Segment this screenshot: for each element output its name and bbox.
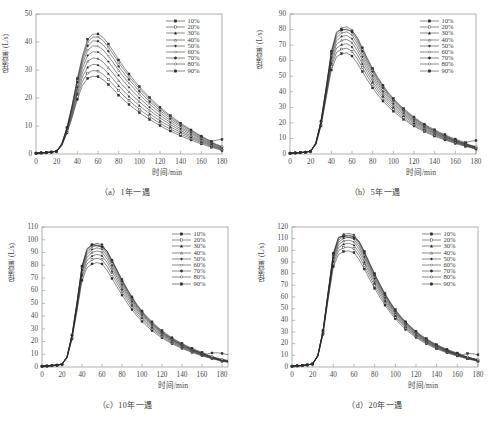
series-marker	[361, 71, 363, 73]
y-tick-label: 110	[16, 223, 38, 231]
y-tick-label: 100	[16, 236, 38, 244]
legend-item[interactable]: 90%	[420, 68, 454, 74]
legend-marker-icon	[420, 37, 439, 43]
series-marker	[159, 125, 161, 127]
series-marker	[341, 44, 343, 46]
legend-marker-icon	[420, 68, 439, 74]
series-marker	[121, 294, 123, 296]
y-tick-label: 90	[266, 258, 288, 266]
series-marker	[97, 33, 99, 35]
y-tick-label: 10	[10, 122, 32, 130]
x-tick-label: 80	[362, 158, 384, 166]
legend-marker-icon	[172, 250, 191, 256]
legend-marker-icon	[422, 256, 441, 262]
series-marker	[341, 48, 343, 50]
series-marker	[312, 363, 314, 365]
series-marker	[161, 330, 163, 332]
series-marker	[111, 274, 113, 276]
series-marker	[384, 304, 386, 306]
series-marker	[71, 334, 73, 336]
series-marker	[91, 255, 93, 257]
y-tick-label: 80	[264, 25, 286, 33]
x-tick-label: 100	[131, 371, 153, 379]
series-marker	[343, 247, 345, 249]
series-marker	[372, 84, 374, 86]
series-marker	[341, 53, 343, 55]
series-marker	[296, 365, 298, 367]
x-tick-label: 40	[66, 158, 88, 166]
y-tick-label: 20	[10, 94, 32, 102]
x-tick-label: 160	[444, 158, 466, 166]
x-tick-label: 60	[343, 371, 365, 379]
x-tick-label: 160	[191, 371, 213, 379]
x-tick-label: 60	[341, 158, 363, 166]
series-marker	[138, 88, 140, 90]
y-tick-label: 20	[264, 119, 286, 127]
legend-marker-icon	[420, 61, 439, 67]
series-marker	[51, 151, 53, 153]
series-marker	[299, 152, 301, 154]
series-marker	[382, 84, 384, 86]
legend: 10%20%30%40%50%60%70%80%90%	[422, 231, 456, 287]
x-tick-label: 80	[108, 158, 130, 166]
y-tick-label: 50	[16, 299, 38, 307]
series-marker	[107, 79, 109, 81]
series-marker	[118, 59, 120, 61]
y-tick-label: 30	[264, 103, 286, 111]
x-tick-label: 60	[87, 158, 109, 166]
x-tick-label: 160	[446, 371, 468, 379]
x-axis-label: 时间/min	[408, 379, 438, 390]
y-tick-label: 80	[266, 269, 288, 277]
series-marker	[307, 364, 309, 366]
series-marker	[343, 235, 345, 237]
series-marker	[101, 255, 103, 257]
series-marker	[87, 38, 89, 40]
legend-item[interactable]: 90%	[166, 68, 200, 74]
legend-marker-icon	[166, 24, 185, 30]
legend-label: 90%	[188, 68, 200, 74]
legend-item[interactable]: 90%	[422, 281, 456, 287]
y-tick-label: 40	[16, 312, 38, 320]
series-marker	[201, 351, 203, 353]
series-marker	[477, 359, 479, 361]
series-marker	[107, 84, 109, 86]
y-tick-label: 60	[264, 56, 286, 64]
series-marker	[111, 259, 113, 261]
legend: 10%20%30%40%50%60%70%80%90%	[172, 231, 206, 287]
series-marker	[169, 115, 171, 117]
x-tick-label: 80	[364, 371, 386, 379]
series-marker	[181, 342, 183, 344]
legend-marker-icon	[420, 43, 439, 49]
x-tick-label: 180	[211, 158, 233, 166]
y-tick-label: 30	[10, 66, 32, 74]
y-tick-label: 70	[266, 281, 288, 289]
series-marker	[221, 358, 223, 360]
chart-svg	[250, 0, 500, 213]
series-marker	[361, 67, 363, 69]
x-tick-label: 20	[51, 371, 73, 379]
y-tick-label: 40	[10, 38, 32, 46]
y-tick-label: 20	[266, 339, 288, 347]
series-marker	[131, 309, 133, 311]
series-marker	[405, 321, 407, 323]
series-marker	[465, 142, 467, 144]
series-marker	[118, 90, 120, 92]
series-marker	[87, 77, 89, 79]
series-marker	[200, 135, 202, 137]
y-tick-label: 80	[16, 261, 38, 269]
series-marker	[81, 265, 83, 267]
series-marker	[361, 56, 363, 58]
series-marker	[454, 138, 456, 140]
y-tick-label: 70	[16, 274, 38, 282]
series-marker	[392, 108, 394, 110]
y-tick-label: 30	[266, 328, 288, 336]
legend-marker-icon	[172, 243, 191, 249]
legend-marker-icon	[166, 30, 185, 36]
series-marker	[51, 365, 53, 367]
legend-marker-icon	[166, 61, 185, 67]
x-tick-label: 100	[384, 371, 406, 379]
legend-item[interactable]: 90%	[172, 281, 206, 287]
legend-marker-icon	[422, 281, 441, 287]
figure-runoff-panels: 径流量/ (L/s) （a）1年一遇 010203040500204060801…	[0, 0, 500, 426]
legend-marker-icon	[420, 30, 439, 36]
